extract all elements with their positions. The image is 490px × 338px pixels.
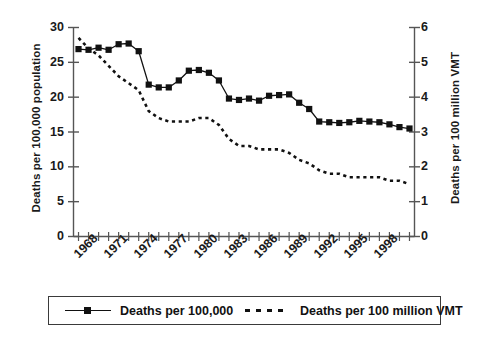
legend: Deaths per 100,000 Deaths per 100 millio… [48, 296, 441, 325]
x-axis-tick-label: 1968 [71, 231, 101, 261]
x-axis-tick-label: 1974 [131, 231, 161, 261]
x-axis-tick-label: 1980 [191, 231, 221, 261]
chart-figure: Deaths per 100,000 population Deaths per… [0, 0, 490, 338]
x-axis-tick-label: 1971 [101, 231, 131, 261]
legend-key-dotted-line-icon [245, 305, 291, 317]
x-axis-tick-label: 1995 [341, 231, 371, 261]
legend-item-deaths-per-100000: Deaths per 100,000 [65, 297, 233, 324]
legend-item-deaths-per-100-million-vmt: Deaths per 100 million VMT [245, 297, 463, 324]
legend-label: Deaths per 100 million VMT [300, 304, 463, 318]
x-axis-tick-label: 1977 [161, 231, 191, 261]
x-axis-tick-label: 1998 [371, 231, 401, 261]
legend-key-solid-line-square-icon [65, 305, 111, 317]
x-axis-tick-label: 1989 [281, 231, 311, 261]
x-axis-ticks: 1968197119741977198019831986198919921995… [0, 0, 490, 338]
x-axis-tick-label: 1983 [221, 231, 251, 261]
x-axis-tick-label: 1992 [311, 231, 341, 261]
x-axis-tick-label: 1986 [251, 231, 281, 261]
legend-label: Deaths per 100,000 [120, 304, 233, 318]
